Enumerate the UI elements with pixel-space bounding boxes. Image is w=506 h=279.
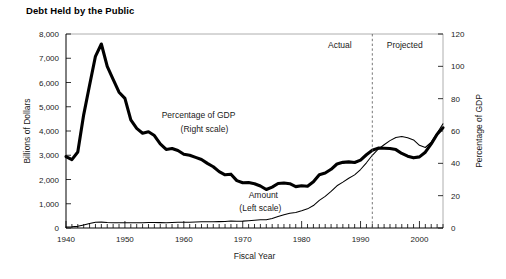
x-tick-label: 1970 bbox=[234, 235, 252, 244]
y-tick-label-right: 40 bbox=[451, 159, 460, 168]
y-axis-right-title: Percentage of GDP bbox=[474, 94, 484, 168]
x-axis-title: Fiscal Year bbox=[234, 251, 276, 261]
chart-annotations: ActualProjectedPercentage of GDP(Right s… bbox=[162, 40, 423, 213]
y-tick-label-right: 120 bbox=[451, 30, 465, 39]
y-tick-label-left: 2,000 bbox=[39, 176, 60, 185]
amount-series-sublabel: (Left scale) bbox=[239, 203, 281, 213]
y-tick-label-right: 100 bbox=[451, 62, 465, 71]
y-tick-label-left: 3,000 bbox=[39, 151, 60, 160]
x-tick-label: 1960 bbox=[175, 235, 193, 244]
y-tick-label-right: 60 bbox=[451, 127, 460, 136]
y-tick-label-right: 0 bbox=[451, 224, 456, 233]
y-tick-label-right: 20 bbox=[451, 192, 460, 201]
y-axis-right-ticks: 020406080100120 bbox=[438, 30, 465, 233]
y-tick-label-left: 6,000 bbox=[39, 79, 60, 88]
x-tick-label: 1990 bbox=[352, 235, 370, 244]
y-tick-label-right: 80 bbox=[451, 95, 460, 104]
y-tick-label-left: 7,000 bbox=[39, 54, 60, 63]
x-tick-label: 2000 bbox=[411, 235, 429, 244]
chart-figure: Debt Held by the Public 1940195019601970… bbox=[0, 0, 506, 279]
projected-label: Projected bbox=[387, 40, 423, 50]
x-tick-label: 1950 bbox=[116, 235, 134, 244]
y-axis-left-title: Billions of Dollars bbox=[22, 98, 32, 163]
pct-series-label: Percentage of GDP bbox=[162, 110, 236, 120]
y-tick-label-left: 0 bbox=[55, 224, 60, 233]
y-tick-label-left: 5,000 bbox=[39, 103, 60, 112]
y-tick-label-left: 1,000 bbox=[39, 200, 60, 209]
y-tick-label-left: 8,000 bbox=[39, 30, 60, 39]
x-tick-label: 1980 bbox=[293, 235, 311, 244]
actual-label: Actual bbox=[328, 40, 352, 50]
x-axis-ticks: 1940195019601970198019902000 bbox=[57, 221, 443, 244]
y-tick-label-left: 4,000 bbox=[39, 127, 60, 136]
amount-series-label: Amount bbox=[249, 190, 279, 200]
chart-canvas: 1940195019601970198019902000 01,0002,000… bbox=[0, 0, 506, 279]
x-tick-label: 1940 bbox=[57, 235, 75, 244]
pct-series-sublabel: (Right scale) bbox=[181, 124, 229, 134]
series-percentage-of-gdp bbox=[66, 44, 443, 190]
